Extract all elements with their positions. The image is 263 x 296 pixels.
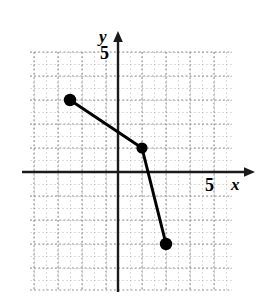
y-axis-tick-label-5: 5 [100, 44, 109, 62]
plot-canvas [0, 0, 263, 296]
x-axis-tick-label-5: 5 [205, 176, 214, 194]
coordinate-plane-figure: y x 5 5 [0, 0, 263, 296]
data-point-2 [136, 142, 147, 153]
y-axis-arrow-icon [113, 31, 123, 42]
data-point-3 [160, 238, 172, 250]
x-axis-arrow-icon [244, 167, 255, 177]
x-axis-label: x [231, 176, 240, 193]
data-point-1 [64, 94, 76, 106]
